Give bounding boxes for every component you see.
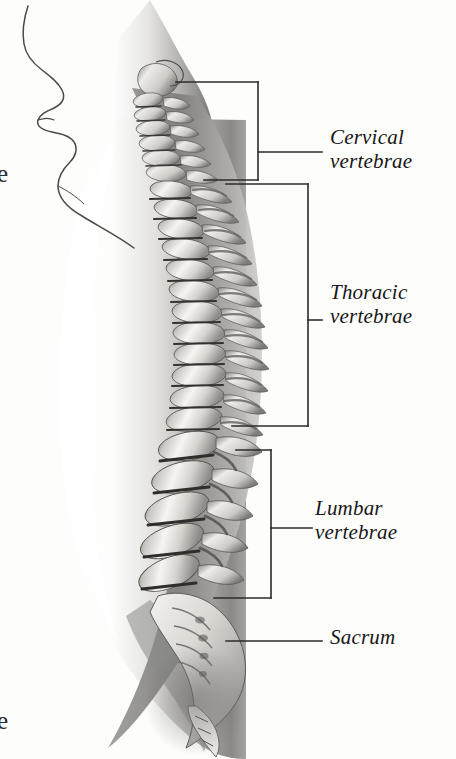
label-cervical-vertebrae: Cervical vertebrae — [330, 126, 412, 173]
label-lumbar-vertebrae: Lumbar vertebrae — [315, 497, 397, 544]
label-sacrum: Sacrum — [330, 626, 395, 650]
edge-text-fragment-top: e — [0, 160, 8, 188]
label-thoracic-vertebrae: Thoracic vertebrae — [330, 281, 412, 328]
edge-text-fragment-bottom: e — [0, 707, 8, 735]
